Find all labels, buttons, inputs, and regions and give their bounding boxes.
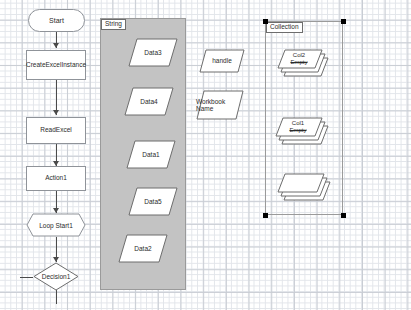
flow-node-decision1[interactable]: Decision1: [33, 262, 79, 291]
connector-decision-down-branch: [56, 290, 57, 304]
collection-item-label: Col2 Empty: [281, 52, 317, 66]
flow-node-create-excel-instance[interactable]: CreateExcelInstance: [26, 50, 86, 80]
document-stack-icon: [277, 170, 331, 202]
flowchart-canvas[interactable]: String Data3 Data4 Data1 Data5 Data2: [0, 0, 411, 310]
collection-item-label: Col1 Empty: [279, 120, 317, 134]
data-node-data5[interactable]: Data5: [128, 187, 178, 216]
collection-item-status: Empty: [281, 59, 317, 66]
selection-handle-bottom-left[interactable]: [263, 213, 268, 218]
data-node-data3[interactable]: Data3: [128, 38, 178, 67]
selection-handle-top-left[interactable]: [263, 19, 268, 24]
container-string-label: String: [101, 19, 126, 30]
arrowhead-create: [53, 43, 59, 48]
data-node-label: Data2: [118, 234, 168, 263]
flow-node-label: Action1: [45, 175, 67, 182]
selection-handle-top-right[interactable]: [341, 19, 346, 24]
flow-node-label: ReadExcel: [40, 127, 71, 134]
data-node-label: Data1: [126, 140, 176, 169]
data-node-data4[interactable]: Data4: [124, 87, 174, 116]
data-node-workbook-name[interactable]: Workbook Name: [196, 90, 244, 120]
collection-item-col2[interactable]: Col2 Empty: [277, 46, 329, 78]
flow-node-action1[interactable]: Action1: [26, 166, 86, 191]
connector-decision-left-branch: [20, 277, 33, 278]
collection-item-name: Col2: [293, 52, 305, 58]
data-node-label: Data3: [128, 38, 178, 67]
container-collection-label: Collection: [266, 22, 303, 33]
arrowhead-read: [53, 110, 59, 115]
data-node-data2[interactable]: Data2: [118, 234, 168, 263]
collection-item-name: Col1: [292, 120, 304, 126]
data-node-data1[interactable]: Data1: [126, 140, 176, 169]
collection-item-status: Empty: [279, 127, 317, 134]
flow-node-read-excel[interactable]: ReadExcel: [26, 117, 86, 144]
data-node-handle[interactable]: handle: [199, 49, 245, 73]
flow-node-label: Decision1: [33, 262, 79, 291]
data-node-label: Data4: [124, 87, 174, 116]
flow-node-label: CreateExcelInstance: [26, 62, 86, 69]
data-node-label: Workbook Name: [196, 90, 244, 120]
selection-handle-bottom-right[interactable]: [341, 213, 346, 218]
flow-node-label: Start: [49, 17, 64, 24]
data-node-label: Data5: [128, 187, 178, 216]
flow-node-loop-start1[interactable]: Loop Start1: [26, 213, 86, 237]
flow-node-label: Loop Start1: [26, 213, 86, 237]
flow-node-start[interactable]: Start: [28, 9, 85, 32]
collection-item-col1[interactable]: Col1 Empty: [275, 114, 329, 146]
collection-item-unlabeled[interactable]: [277, 170, 331, 202]
data-node-label: handle: [199, 49, 245, 73]
